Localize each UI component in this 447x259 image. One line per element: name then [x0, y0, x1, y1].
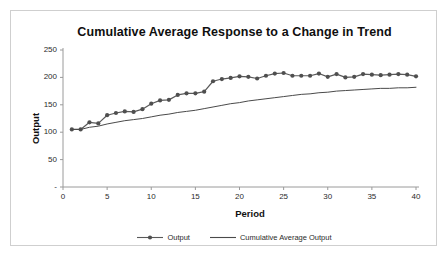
legend-label-output: Output: [167, 233, 190, 242]
chart-frame: Cumulative Average Response to a Change …: [10, 10, 437, 246]
plot-area: [11, 11, 438, 247]
axis-lines: [63, 48, 419, 187]
legend-swatch-line-marker: [137, 233, 163, 242]
series-output: [70, 71, 418, 132]
legend-item-output[interactable]: Output: [137, 233, 190, 242]
chart-legend: Output Cumulative Average Output: [11, 233, 447, 242]
series-cumulative-average-output: [72, 87, 416, 129]
legend-label-cumulative-average-output: Cumulative Average Output: [240, 233, 332, 242]
legend-swatch-line: [210, 233, 236, 242]
legend-item-cumulative-average-output[interactable]: Cumulative Average Output: [210, 233, 332, 242]
